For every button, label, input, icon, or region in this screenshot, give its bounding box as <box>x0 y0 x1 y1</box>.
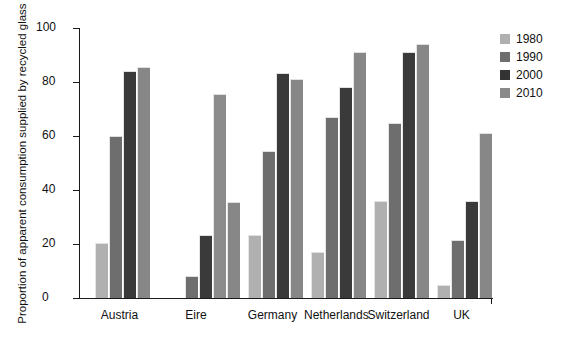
bar-switzerland-2010 <box>416 44 429 298</box>
legend-swatch-2000 <box>500 70 510 80</box>
legend: 1980199020002010 <box>500 30 582 102</box>
legend-label-2000: 2000 <box>516 69 543 81</box>
bar-germany-1980 <box>248 235 261 298</box>
y-axis-title-text: Proportion of apparent consumption suppl… <box>15 0 29 323</box>
x-axis-end-tick <box>491 298 492 304</box>
bar-groups: AustriaEireGermanyNetherlandsSwitzerland… <box>88 28 492 298</box>
x-axis-label-switzerland: Switzerland <box>367 308 430 322</box>
x-axis-label-germany: Germany <box>241 308 304 322</box>
bar-netherlands-2010 <box>353 52 366 298</box>
x-axis-label-austria: Austria <box>88 308 151 322</box>
y-tick-label-20: 20 <box>42 236 88 250</box>
bar-group-uk: UK <box>430 28 493 298</box>
bar-group-netherlands: Netherlands <box>304 28 367 298</box>
bar-group-germany: Germany <box>241 28 304 298</box>
bar-austria-1980 <box>95 243 108 298</box>
legend-swatch-1980 <box>500 34 510 44</box>
bar-germany-2000 <box>276 73 289 298</box>
bar-austria-2010 <box>137 67 150 298</box>
y-tick-label-60: 60 <box>42 128 88 142</box>
bar-eire-2010-tall <box>213 94 226 298</box>
legend-label-1980: 1980 <box>516 33 543 45</box>
bar-netherlands-1980 <box>311 252 324 298</box>
y-tick-label-40: 40 <box>42 182 88 196</box>
legend-swatch-1990 <box>500 52 510 62</box>
y-tick-label-0: 0 <box>42 290 88 304</box>
bar-group-switzerland: Switzerland <box>367 28 430 298</box>
x-axis-label-netherlands: Netherlands <box>304 308 367 322</box>
legend-item-1980: 1980 <box>500 30 582 47</box>
y-tick-label-100: 100 <box>36 20 88 34</box>
y-axis-line <box>79 28 80 299</box>
bar-uk-1990 <box>451 240 464 298</box>
bar-uk-1980 <box>437 285 450 299</box>
x-axis-label-uk: UK <box>430 308 493 322</box>
bar-group-eire: Eire <box>151 28 241 298</box>
bar-chart: Proportion of apparent consumption suppl… <box>0 0 587 352</box>
bar-germany-2010 <box>290 79 303 298</box>
y-axis-title: Proportion of apparent consumption suppl… <box>2 0 42 305</box>
y-tick-label-80: 80 <box>42 74 88 88</box>
bar-uk-2010 <box>479 133 492 298</box>
legend-item-1990: 1990 <box>500 48 582 65</box>
legend-item-2010: 2010 <box>500 84 582 101</box>
bar-uk-2000 <box>465 201 478 298</box>
x-axis-label-eire: Eire <box>151 308 241 322</box>
bar-netherlands-1990 <box>325 117 338 298</box>
bar-austria-2000 <box>123 71 136 298</box>
caption-fragment <box>6 342 306 350</box>
bar-switzerland-2000 <box>402 52 415 298</box>
x-axis-line <box>79 298 493 299</box>
legend-swatch-2010 <box>500 88 510 98</box>
legend-item-2000: 2000 <box>500 66 582 83</box>
bar-austria-1990 <box>109 136 122 298</box>
bar-group-austria: Austria <box>88 28 151 298</box>
bar-eire-1990 <box>185 276 198 298</box>
bar-eire-2010 <box>227 202 240 298</box>
legend-label-1990: 1990 <box>516 51 543 63</box>
bar-switzerland-1990 <box>388 123 401 299</box>
plot-area: 0 20 40 60 80 100 AustriaEireGermanyNeth… <box>88 28 492 298</box>
bar-eire-2000 <box>199 235 212 298</box>
legend-label-2010: 2010 <box>516 87 543 99</box>
bar-switzerland-1980 <box>374 201 387 298</box>
bar-netherlands-2000 <box>339 87 352 298</box>
bar-germany-1990 <box>262 151 275 298</box>
